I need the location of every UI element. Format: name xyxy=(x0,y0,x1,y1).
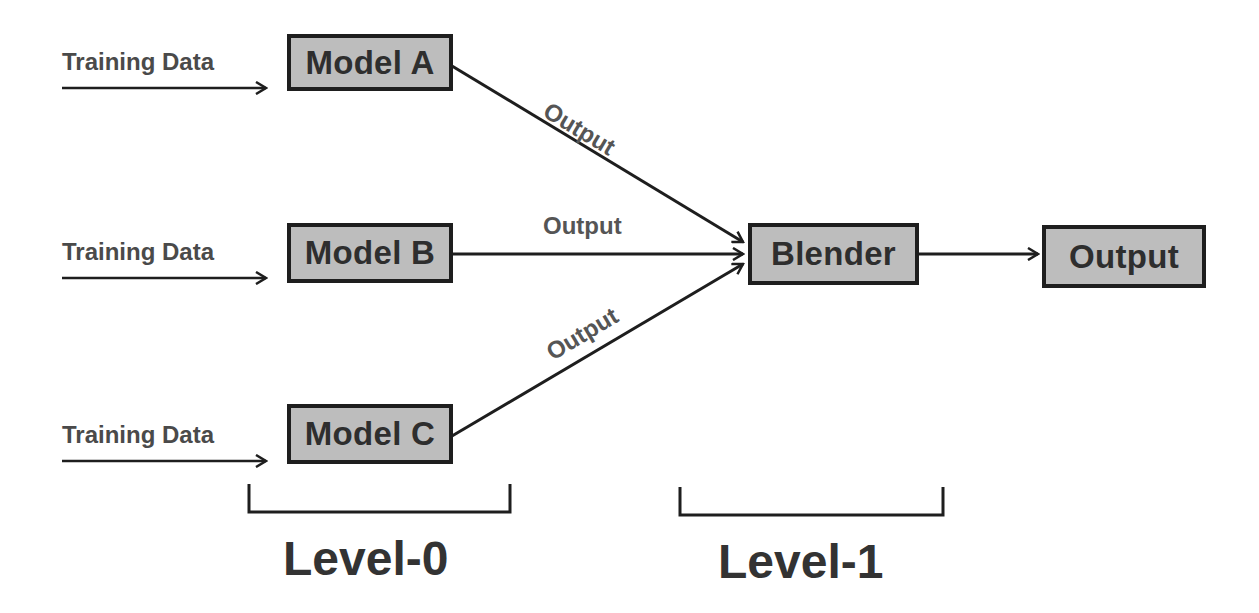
model-a-box: Model A xyxy=(287,34,453,91)
model-c-box: Model C xyxy=(287,404,453,464)
level-1-bracket xyxy=(680,487,943,515)
model-a-label: Model A xyxy=(305,44,434,82)
edge-label-b: Output xyxy=(543,212,622,240)
edge-model-c-blender xyxy=(452,264,743,436)
training-data-label-c: Training Data xyxy=(62,421,214,449)
blender-label: Blender xyxy=(771,235,896,273)
connector-lines xyxy=(0,0,1259,613)
model-b-label: Model B xyxy=(305,234,435,272)
level-1-label: Level-1 xyxy=(718,534,883,589)
model-c-label: Model C xyxy=(305,415,435,453)
level-0-bracket xyxy=(249,484,510,512)
final-output-label: Output xyxy=(1069,238,1179,276)
training-data-label-b: Training Data xyxy=(62,238,214,266)
training-data-label-a: Training Data xyxy=(62,48,214,76)
model-b-box: Model B xyxy=(287,223,453,283)
level-0-label: Level-0 xyxy=(283,531,448,586)
blender-box: Blender xyxy=(748,223,919,285)
final-output-box: Output xyxy=(1042,225,1206,288)
